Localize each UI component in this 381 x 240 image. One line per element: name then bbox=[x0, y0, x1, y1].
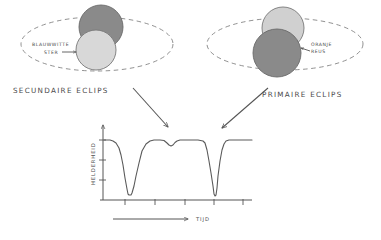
chart-x-axis-label: TIJD bbox=[195, 216, 210, 223]
right-star-label-arrow-icon bbox=[301, 48, 310, 51]
left-star-foreground-blauwwitte-ster bbox=[76, 30, 116, 70]
right-binary-system: ORANJE REUS PRIMAIRE ECLIPS bbox=[207, 7, 363, 99]
right-star-label-group: ORANJE REUS bbox=[301, 42, 332, 54]
left-binary-system: BLAUWWITTE STER SECUNDAIRE ECLIPS bbox=[13, 5, 173, 95]
arrow-primary-eclipse-to-curve bbox=[222, 88, 268, 128]
right-star-foreground-oranje-reus bbox=[253, 29, 301, 77]
light-curve-chart: HELDERHEID TIJD bbox=[90, 125, 252, 223]
right-star-label-line2: REUS bbox=[311, 49, 326, 54]
right-system-caption: PRIMAIRE ECLIPS bbox=[262, 90, 343, 99]
left-star-label-line2: STER bbox=[44, 50, 58, 55]
arrow-secondary-eclipse-to-curve bbox=[133, 88, 168, 127]
right-star-label-line1: ORANJE bbox=[311, 42, 332, 47]
figure-canvas: BLAUWWITTE STER SECUNDAIRE ECLIPS ORANJE… bbox=[0, 0, 381, 240]
left-star-label-line1: BLAUWWITTE bbox=[32, 42, 69, 47]
chart-y-axis-label: HELDERHEID bbox=[90, 142, 96, 185]
left-system-caption: SECUNDAIRE ECLIPS bbox=[13, 86, 109, 95]
light-curve-path bbox=[104, 140, 252, 196]
left-star-label-group: BLAUWWITTE STER bbox=[32, 42, 76, 55]
